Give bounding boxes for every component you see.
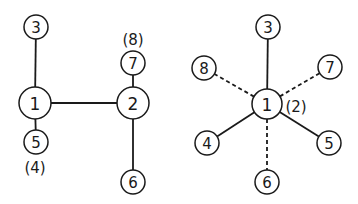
node-4: 4 bbox=[195, 131, 219, 155]
node-label: 7 bbox=[128, 55, 138, 73]
node-label: 5 bbox=[31, 134, 41, 152]
edge-1-3 bbox=[267, 39, 268, 89]
node-label: 3 bbox=[31, 19, 41, 37]
node-7: 7 bbox=[121, 51, 145, 75]
graph-diagrams: 315276(4)(8) 3871456(2) bbox=[0, 0, 358, 204]
right-graph: 3871456(2) bbox=[192, 15, 342, 194]
annotation-label: (2) bbox=[285, 98, 306, 116]
node-label: 1 bbox=[30, 94, 41, 114]
node-label: 6 bbox=[128, 174, 138, 192]
node-label: 8 bbox=[199, 60, 209, 78]
node-6: 6 bbox=[121, 170, 145, 194]
annotation-label: (4) bbox=[24, 159, 45, 177]
node-label: 6 bbox=[262, 174, 272, 192]
node-5: 5 bbox=[317, 131, 341, 155]
node-label: 3 bbox=[263, 19, 273, 37]
node-3: 3 bbox=[24, 15, 48, 39]
annotation-label: (8) bbox=[122, 31, 143, 49]
node-7: 7 bbox=[318, 55, 342, 79]
node-6: 6 bbox=[255, 170, 279, 194]
node-label: 1 bbox=[262, 95, 273, 115]
node-label: 5 bbox=[324, 135, 334, 153]
node-2: 2 bbox=[117, 87, 149, 119]
node-1: 1 bbox=[19, 87, 51, 119]
edge-1-8-dashed bbox=[214, 74, 254, 97]
node-1: 1 bbox=[252, 89, 282, 119]
edge-1-3 bbox=[35, 39, 36, 87]
node-5: 5 bbox=[24, 130, 48, 154]
node-3: 3 bbox=[256, 15, 280, 39]
left-graph: 315276(4)(8) bbox=[19, 15, 149, 194]
edge-1-4 bbox=[217, 112, 254, 136]
node-8: 8 bbox=[192, 56, 216, 80]
edge-1-7-dashed bbox=[280, 73, 320, 96]
node-label: 7 bbox=[325, 59, 335, 77]
node-label: 4 bbox=[202, 135, 212, 153]
node-label: 2 bbox=[128, 94, 139, 114]
